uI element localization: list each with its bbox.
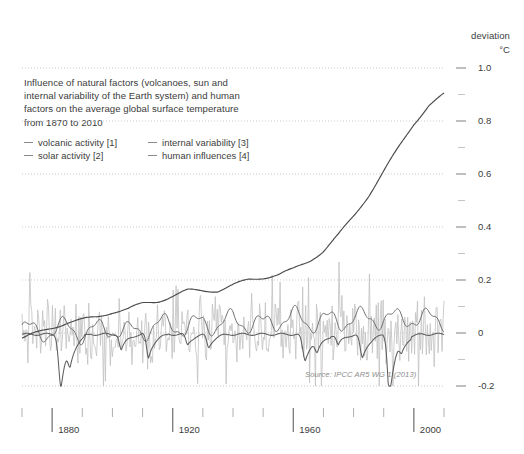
y-axis-tick-label: -0.2 xyxy=(478,380,494,391)
series-internal-variability xyxy=(22,262,444,386)
y-axis-tick-label: 0.8 xyxy=(478,115,491,126)
x-axis-tick-label: 1880 xyxy=(58,424,79,435)
y-axis-tick-label: 0.6 xyxy=(478,168,491,179)
y-axis-tick-label: 0 xyxy=(478,327,483,338)
internal-variability-line xyxy=(22,262,444,386)
source-attribution: Source: IPCC AR5 WG 1 (2013) xyxy=(305,370,416,379)
x-axis-tick-label: 2000 xyxy=(420,424,441,435)
x-axis-tick-label: 1920 xyxy=(179,424,200,435)
x-axis-tick-label: 1960 xyxy=(299,424,320,435)
y-axis-tick-label: 0.2 xyxy=(478,274,491,285)
climate-attribution-chart: deviation °C Influence of natural factor… xyxy=(0,0,524,454)
plot-area xyxy=(0,0,524,454)
y-axis-tick-label: 0.4 xyxy=(478,221,491,232)
series-human-influences xyxy=(22,93,444,338)
y-axis-tick-label: 1.0 xyxy=(478,62,491,73)
